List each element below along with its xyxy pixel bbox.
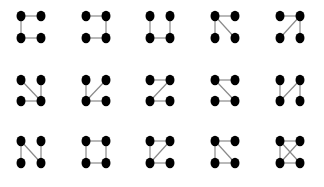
node-br [231, 96, 240, 106]
graph-1-2 [82, 11, 111, 43]
node-br [166, 158, 175, 168]
graph-2-3 [146, 75, 175, 106]
node-bl [211, 158, 220, 168]
node-tl [211, 75, 220, 85]
node-br [102, 158, 111, 168]
node-tl [17, 11, 26, 21]
node-br [102, 33, 111, 43]
graph-3-5 [276, 136, 305, 168]
node-br [166, 33, 175, 43]
node-tr [102, 11, 111, 21]
node-tr [296, 11, 305, 21]
node-bl [17, 33, 26, 43]
node-tr [231, 11, 240, 21]
node-tl [146, 136, 155, 146]
node-bl [211, 33, 220, 43]
node-tl [276, 11, 285, 21]
node-bl [276, 158, 285, 168]
node-bl [146, 96, 155, 106]
node-tr [37, 136, 46, 146]
graph-3-4 [211, 136, 240, 168]
node-bl [146, 158, 155, 168]
node-tl [211, 136, 220, 146]
graph-1-1 [17, 11, 46, 43]
node-tr [166, 75, 175, 85]
graph-2-1 [17, 75, 46, 106]
node-tr [102, 136, 111, 146]
node-tr [37, 75, 46, 85]
node-tl [276, 136, 285, 146]
node-br [37, 158, 46, 168]
node-br [102, 96, 111, 106]
graph-3-1 [17, 136, 46, 168]
graph-3-3 [146, 136, 175, 168]
node-br [231, 33, 240, 43]
graph-3-2 [82, 136, 111, 168]
graph-grid-diagram [0, 0, 324, 187]
node-bl [146, 33, 155, 43]
graph-grid-svg [0, 0, 324, 187]
node-bl [276, 96, 285, 106]
node-bl [17, 96, 26, 106]
node-tl [82, 136, 91, 146]
node-bl [82, 158, 91, 168]
node-tr [231, 75, 240, 85]
node-br [37, 96, 46, 106]
node-tr [102, 75, 111, 85]
node-bl [82, 33, 91, 43]
node-tl [82, 75, 91, 85]
graph-1-4 [211, 11, 240, 43]
node-tr [37, 11, 46, 21]
node-br [166, 96, 175, 106]
node-tl [276, 75, 285, 85]
node-tl [146, 75, 155, 85]
node-bl [276, 33, 285, 43]
node-bl [82, 96, 91, 106]
node-tr [166, 136, 175, 146]
node-br [296, 158, 305, 168]
node-br [296, 33, 305, 43]
node-tl [17, 75, 26, 85]
node-tl [17, 136, 26, 146]
node-bl [211, 96, 220, 106]
node-tl [146, 11, 155, 21]
node-br [37, 33, 46, 43]
node-tl [82, 11, 91, 21]
graph-1-3 [146, 11, 175, 43]
graph-2-5 [276, 75, 305, 106]
node-tr [296, 75, 305, 85]
node-tr [166, 11, 175, 21]
node-tr [231, 136, 240, 146]
graph-2-4 [211, 75, 240, 106]
node-tl [211, 11, 220, 21]
graph-1-5 [276, 11, 305, 43]
node-br [296, 96, 305, 106]
node-tr [296, 136, 305, 146]
graph-2-2 [82, 75, 111, 106]
node-bl [17, 158, 26, 168]
node-br [231, 158, 240, 168]
